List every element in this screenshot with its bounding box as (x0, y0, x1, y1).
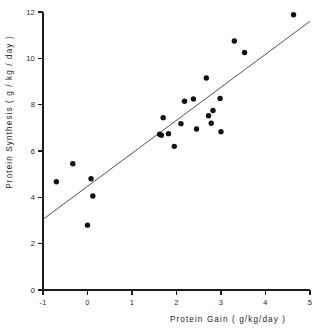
data-point-marker (88, 176, 93, 181)
data-point-marker (217, 96, 222, 101)
data-point-marker (210, 108, 215, 113)
scatter-plot-figure: 024681012 -1012345 Protein Gain ( g/kg/d… (0, 0, 327, 331)
data-point-marker (194, 126, 199, 131)
x-tick-label: 2 (174, 298, 178, 307)
regression-line (43, 21, 310, 219)
data-point-marker (291, 12, 296, 17)
x-tick-label: 1 (130, 298, 134, 307)
y-tick-label: 4 (31, 193, 35, 202)
data-point-marker (159, 133, 164, 138)
data-point-marker (85, 222, 90, 227)
y-tick-label: 2 (31, 239, 35, 248)
data-point-marker (191, 96, 196, 101)
x-tick-label: 0 (85, 298, 89, 307)
y-tick-label: 8 (31, 100, 35, 109)
x-tick-label: 5 (308, 298, 312, 307)
y-tick-label: 12 (26, 8, 35, 17)
data-point-marker (54, 179, 59, 184)
y-axis-ticks: 024681012 (26, 8, 43, 295)
x-tick-label: 4 (263, 298, 267, 307)
data-point-marker (232, 38, 237, 43)
y-tick-label: 10 (26, 54, 35, 63)
axes-group (43, 12, 310, 290)
data-point-marker (70, 161, 75, 166)
data-point-marker (166, 131, 171, 136)
data-points-group (54, 12, 297, 228)
data-point-marker (90, 193, 95, 198)
y-axis-title: Protein Synthesis ( g / kg / day ) (5, 35, 14, 188)
data-point-marker (242, 50, 247, 55)
x-axis-title: Protein Gain ( g/kg/day ) (170, 315, 286, 324)
data-point-marker (204, 75, 209, 80)
y-tick-label: 0 (31, 286, 35, 295)
data-point-marker (172, 144, 177, 149)
data-point-marker (178, 121, 183, 126)
regression-line-segment (43, 21, 310, 219)
data-point-marker (182, 98, 187, 103)
x-tick-label: 3 (219, 298, 223, 307)
data-point-marker (206, 113, 211, 118)
data-point-marker (209, 121, 214, 126)
y-tick-label: 6 (31, 147, 35, 156)
data-point-marker (218, 129, 223, 134)
data-point-marker (160, 115, 165, 120)
plot-canvas: 024681012 -1012345 Protein Gain ( g/kg/d… (0, 0, 327, 331)
x-axis-ticks: -1012345 (39, 290, 312, 307)
x-tick-label: -1 (39, 298, 46, 307)
